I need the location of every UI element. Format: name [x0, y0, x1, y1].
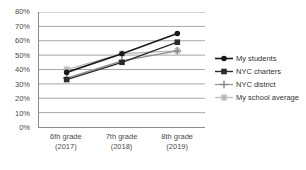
data-point-square-marker	[175, 39, 181, 45]
x-axis-tick-label: 6th grade(2017)	[38, 132, 94, 166]
x-axis-tick-label: 7th grade(2018)	[94, 132, 150, 166]
legend-star-icon	[214, 91, 236, 104]
data-point-square-marker	[221, 69, 227, 75]
series-layer	[39, 12, 205, 127]
x-tick-year: (2017)	[38, 142, 94, 152]
x-tick-grade: 7th grade	[106, 132, 138, 141]
legend-square-icon	[214, 65, 236, 78]
x-tick-grade: 6th grade	[50, 132, 82, 141]
legend-item-label: NYC charters	[236, 65, 281, 78]
plot-area	[38, 12, 205, 128]
legend-item-nyc-charters[interactable]: NYC charters	[214, 65, 306, 78]
x-tick-year: (2019)	[149, 142, 205, 152]
line-chart: 0%10%20%30%40%50%60%70%80% 6th grade(201…	[0, 0, 306, 170]
y-axis-tick-label: 10%	[0, 110, 34, 118]
legend-plus-icon	[214, 78, 236, 91]
y-axis-tick-label: 40%	[0, 66, 34, 74]
data-point-circle-marker	[119, 51, 125, 57]
legend-item-label: My school average	[236, 91, 299, 104]
data-point-plus-marker	[220, 81, 228, 89]
y-axis-tick-label: 80%	[0, 8, 34, 16]
y-axis-tick-label: 30%	[0, 81, 34, 89]
series-nyc-charters	[64, 39, 180, 82]
x-axis-tick-label: 8th grade(2019)	[149, 132, 205, 166]
legend-item-nyc-district[interactable]: NYC district	[214, 78, 306, 91]
data-point-square-marker	[64, 77, 70, 83]
data-point-square-marker	[119, 60, 125, 66]
y-axis-tick-label: 20%	[0, 95, 34, 103]
y-axis-tick-label: 50%	[0, 52, 34, 60]
y-axis: 0%10%20%30%40%50%60%70%80%	[0, 0, 34, 170]
data-point-circle-marker	[64, 70, 70, 76]
x-axis: 6th grade(2017)7th grade(2018)8th grade(…	[38, 132, 205, 166]
y-axis-tick-label: 0%	[0, 124, 34, 132]
data-point-circle-marker	[175, 31, 181, 37]
legend-item-my-school-average[interactable]: My school average	[214, 91, 306, 104]
data-point-star-marker	[220, 94, 228, 102]
chart-legend: My studentsNYC chartersNYC districtMy sc…	[214, 52, 306, 104]
legend-item-my-students[interactable]: My students	[214, 52, 306, 65]
x-tick-year: (2018)	[94, 142, 150, 152]
legend-item-label: NYC district	[236, 78, 276, 91]
x-tick-grade: 8th grade	[161, 132, 193, 141]
legend-item-label: My students	[236, 52, 276, 65]
data-point-circle-marker	[221, 56, 227, 62]
y-axis-tick-label: 70%	[0, 23, 34, 31]
legend-circle-icon	[214, 52, 236, 65]
y-axis-tick-label: 60%	[0, 37, 34, 45]
